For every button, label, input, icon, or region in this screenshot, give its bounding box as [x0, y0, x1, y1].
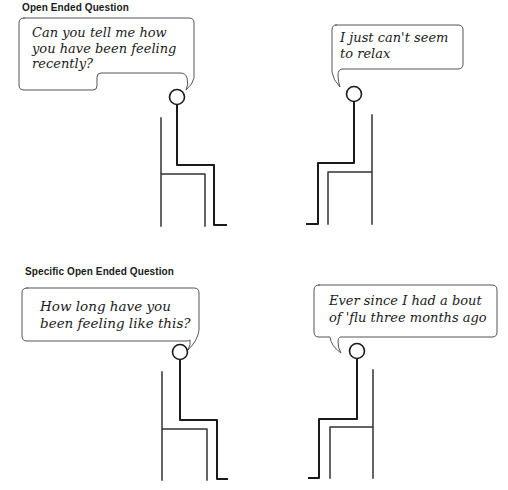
- illustration-canvas: [0, 0, 508, 490]
- interviewer-figure-1: [161, 90, 226, 227]
- patient-figure-2: [309, 344, 373, 479]
- body-line: [307, 102, 354, 224]
- patient-speech-text-1: I just can't seem to relax: [340, 30, 448, 62]
- chair: [162, 372, 207, 480]
- chair: [330, 370, 373, 478]
- interviewer-speech-text-1: Can you tell me how you have been feelin…: [32, 25, 176, 72]
- interviewer-figure-2: [162, 345, 227, 481]
- chair: [161, 118, 205, 226]
- head-icon: [173, 345, 188, 360]
- body-line: [309, 359, 357, 478]
- interviewer-speech-text-2: How long have you been feeling like this…: [40, 298, 191, 332]
- body-line: [180, 360, 227, 479]
- chair: [328, 115, 372, 224]
- patient-speech-text-2: Ever since I had a bout of 'flu three mo…: [329, 292, 487, 326]
- head-icon: [170, 90, 185, 105]
- head-icon: [350, 344, 365, 359]
- body-line: [177, 105, 226, 225]
- head-icon: [347, 87, 362, 102]
- patient-figure-1: [307, 87, 372, 225]
